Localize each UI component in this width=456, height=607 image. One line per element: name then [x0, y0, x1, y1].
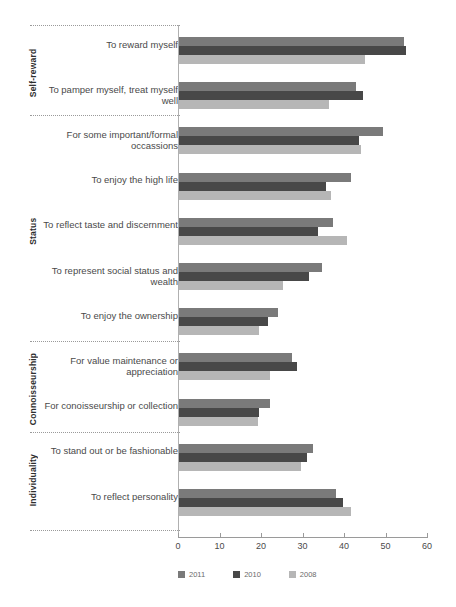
bar-2008-cat-10: [178, 507, 351, 516]
bar-2010-cat-8: [178, 408, 259, 417]
group-label-self-reward: Self-reward: [24, 27, 42, 119]
bar-2011-cat-9: [178, 444, 313, 453]
category-label: To enjoy the high life: [38, 174, 178, 186]
category-label: To reward myself: [38, 39, 178, 51]
legend-item-2011: 2011: [178, 570, 205, 579]
bar-2010-cat-2: [178, 136, 359, 145]
bar-2010-cat-0: [178, 46, 406, 55]
bar-2011-cat-4: [178, 218, 333, 227]
bar-2008-cat-8: [178, 417, 258, 426]
bar-2008-cat-4: [178, 236, 347, 245]
category-label: To stand out or be fashionable: [38, 445, 178, 457]
bar-2011-cat-8: [178, 399, 270, 408]
bar-2011-cat-3: [178, 173, 351, 182]
chart-legend: 201120102008: [178, 570, 317, 579]
x-axis-tick-label: 30: [291, 541, 315, 551]
bar-2011-cat-2: [178, 127, 383, 136]
category-label: To represent social status and wealth: [38, 265, 178, 288]
bar-2008-cat-1: [178, 100, 329, 109]
bar-2010-cat-6: [178, 317, 268, 326]
bar-2010-cat-7: [178, 362, 297, 371]
group-separator: [30, 530, 180, 531]
bar-2010-cat-1: [178, 91, 363, 100]
x-axis-tick-label: 50: [374, 541, 398, 551]
bar-2010-cat-3: [178, 182, 326, 191]
x-axis-tick: [220, 533, 221, 537]
category-label: To reflect taste and discernment: [38, 219, 178, 231]
bar-2010-cat-10: [178, 498, 343, 507]
category-label: For some important/formal occassions: [38, 129, 178, 152]
legend-label: 2011: [189, 570, 205, 579]
legend-item-2010: 2010: [233, 570, 261, 579]
bar-2011-cat-1: [178, 82, 356, 91]
group-separator: [30, 432, 180, 433]
bar-2011-cat-5: [178, 263, 322, 272]
bar-2011-cat-10: [178, 489, 336, 498]
bar-2008-cat-3: [178, 191, 331, 200]
x-axis-tick-label: 10: [208, 541, 232, 551]
category-label: To pamper myself, treat myself well: [38, 84, 178, 107]
x-axis-line: [178, 537, 428, 538]
category-label: To enjoy the ownership: [38, 310, 178, 322]
x-axis-tick-label: 20: [249, 541, 273, 551]
bar-2008-cat-6: [178, 326, 259, 335]
bar-2008-cat-7: [178, 371, 270, 380]
group-separator: [30, 115, 180, 116]
bar-2010-cat-9: [178, 453, 307, 462]
group-separator: [30, 25, 180, 26]
bar-2011-cat-6: [178, 308, 278, 317]
x-axis-tick: [178, 533, 179, 537]
bar-2011-cat-7: [178, 353, 292, 362]
x-axis-tick-label: 40: [332, 541, 356, 551]
legend-item-2008: 2008: [289, 570, 317, 579]
x-axis-tick: [386, 533, 387, 537]
category-label: For value maintenance or appreciation: [38, 355, 178, 378]
bar-2008-cat-0: [178, 55, 365, 64]
group-label-connoisseurship: Connoisseurship: [24, 343, 42, 435]
horizontal-bar-chart: To reward myselfTo pamper myself, treat …: [0, 0, 456, 607]
bar-2010-cat-4: [178, 227, 318, 236]
x-axis-tick-label: 0: [166, 541, 190, 551]
bar-2008-cat-9: [178, 462, 301, 471]
axis-baseline: [178, 25, 179, 537]
group-label-individuality: Individuality: [24, 434, 42, 526]
legend-label: 2008: [300, 570, 317, 579]
plot-area: To reward myselfTo pamper myself, treat …: [0, 0, 456, 607]
bar-2010-cat-5: [178, 272, 309, 281]
x-axis-tick-label: 60: [415, 541, 439, 551]
category-label: To reflect personality: [38, 491, 178, 503]
legend-swatch-icon: [178, 571, 185, 578]
group-label-status: Status: [24, 117, 42, 345]
bar-2008-cat-5: [178, 281, 283, 290]
legend-swatch-icon: [289, 571, 296, 578]
x-axis-tick: [344, 533, 345, 537]
group-separator: [30, 341, 180, 342]
bar-2011-cat-0: [178, 37, 404, 46]
legend-label: 2010: [244, 570, 261, 579]
bar-2008-cat-2: [178, 145, 361, 154]
x-axis-tick: [303, 533, 304, 537]
x-axis-tick: [427, 533, 428, 537]
legend-swatch-icon: [233, 571, 240, 578]
x-axis-tick: [261, 533, 262, 537]
category-label: For conoisseurship or collection: [38, 400, 178, 412]
